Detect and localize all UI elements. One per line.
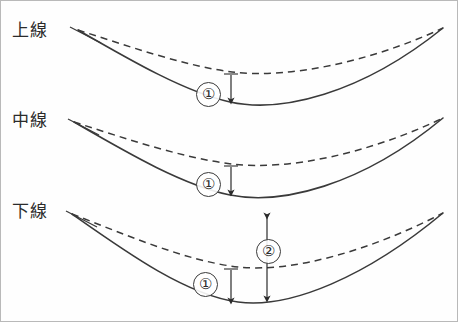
- wire-label-middle: 中線: [12, 112, 48, 129]
- leader-line-upper: [70, 27, 101, 43]
- callout-sag-middle: ①: [196, 172, 221, 197]
- wire-label-upper: 上線: [12, 22, 48, 39]
- diagram-canvas: [0, 0, 458, 322]
- leader-line-middle: [68, 119, 99, 135]
- wire-group-middle: [68, 118, 443, 198]
- wire-group-lower: [66, 211, 443, 303]
- sag-measure-lower: [224, 269, 238, 301]
- sag-measure-middle: [224, 166, 238, 193]
- catenary-sag-diagram: 上線 中線 下線 ① ① ② ①: [0, 0, 458, 322]
- callout-spacing: ②: [256, 239, 281, 264]
- wire-group-upper: [70, 27, 443, 105]
- leader-line-lower: [66, 211, 97, 227]
- sag-measure-upper: [224, 74, 238, 101]
- callout-sag-upper: ①: [196, 82, 221, 107]
- lower-dashed-curve: [72, 213, 443, 268]
- middle-dashed-curve: [74, 118, 443, 165]
- wire-label-lower: 下線: [12, 203, 48, 220]
- callout-sag-lower: ①: [193, 272, 218, 297]
- middle-solid-curve: [74, 118, 443, 198]
- upper-solid-curve: [78, 28, 443, 105]
